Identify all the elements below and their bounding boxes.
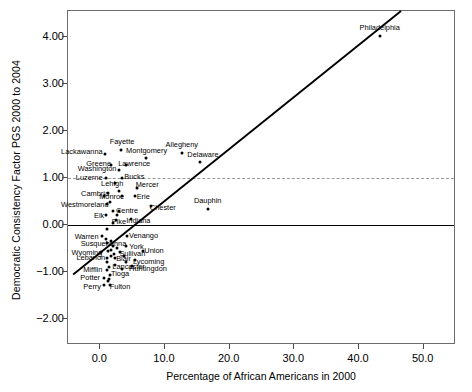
data-point-label: Delaware xyxy=(187,151,218,158)
data-point-label: Philadelphia xyxy=(360,24,400,31)
data-point-label: Venango xyxy=(129,232,158,239)
data-point-label: Centre xyxy=(116,207,138,214)
data-point-label: Lehigh xyxy=(101,180,123,187)
data-point xyxy=(103,152,106,155)
data-point xyxy=(112,253,115,256)
x-tick-label: 50.0 xyxy=(412,352,433,364)
data-point-label: Lebanon xyxy=(76,255,105,262)
scatter-plot-figure: Democratic Consistency Factor PGS 2000 t… xyxy=(0,0,472,392)
data-point xyxy=(100,234,103,237)
data-point-label: Perry xyxy=(83,284,101,291)
data-point-label: Mercer xyxy=(136,181,159,188)
x-tick-mark xyxy=(293,344,294,349)
x-tick-mark xyxy=(164,344,165,349)
data-point xyxy=(120,149,123,152)
data-point xyxy=(102,194,105,197)
x-tick-label: 20.0 xyxy=(218,352,239,364)
data-point-label: Union xyxy=(144,248,163,255)
data-point-label: Washington xyxy=(78,166,117,173)
data-point xyxy=(198,161,201,164)
data-point xyxy=(103,284,106,287)
data-point-label: Susquehanna xyxy=(81,240,127,247)
data-point-label: Elk xyxy=(94,212,104,219)
x-tick-mark xyxy=(423,344,424,349)
data-point-label: Huntingdon xyxy=(129,265,167,272)
data-point xyxy=(116,246,119,249)
x-tick-label: 0.0 xyxy=(92,352,107,364)
data-point xyxy=(180,152,183,155)
data-point xyxy=(106,227,109,230)
x-tick-label: 40.0 xyxy=(347,352,368,364)
data-point xyxy=(109,239,112,242)
data-point-label: Indiana xyxy=(126,218,150,225)
data-point-label: Lackawanna xyxy=(61,148,103,155)
data-point-label: Westmoreland xyxy=(61,201,109,208)
data-point xyxy=(122,255,125,258)
data-point xyxy=(109,200,112,203)
data-point-label: Fulton xyxy=(110,283,131,290)
data-point-label: Allegheny xyxy=(166,141,198,148)
data-point xyxy=(108,266,111,269)
data-point xyxy=(109,248,112,251)
data-point xyxy=(121,267,124,270)
data-point xyxy=(112,245,115,248)
plot-area: PhiladelphiaAlleghenyDelawareFayetteLack… xyxy=(67,10,455,344)
data-point xyxy=(107,280,110,283)
data-point xyxy=(103,276,106,279)
data-point xyxy=(125,261,128,264)
data-point xyxy=(107,250,110,253)
data-point-label: Fayette xyxy=(110,139,135,146)
data-point xyxy=(116,213,119,216)
data-point-label: Erie xyxy=(137,193,150,200)
data-point-label: Potter xyxy=(80,274,100,281)
data-point-label: Luzerne xyxy=(76,174,103,181)
data-point xyxy=(104,238,107,241)
data-point xyxy=(105,213,108,216)
data-point xyxy=(206,208,209,211)
data-point xyxy=(105,260,108,263)
x-tick-label: 10.0 xyxy=(153,352,174,364)
x-tick-label: 30.0 xyxy=(283,352,304,364)
data-point-label: Dauphin xyxy=(194,197,222,204)
data-point xyxy=(124,244,127,247)
data-point xyxy=(118,190,121,193)
data-point xyxy=(112,209,115,212)
data-point-label: Lawrence xyxy=(118,160,150,167)
data-point-label: Chester xyxy=(150,204,176,211)
data-point xyxy=(109,255,112,258)
x-tick-mark xyxy=(229,344,230,349)
data-point xyxy=(378,34,381,37)
x-tick-mark xyxy=(99,344,100,349)
data-point-label: Tioga xyxy=(111,271,129,278)
data-point xyxy=(112,221,115,224)
data-point-label: Montgomery xyxy=(126,148,167,155)
data-point xyxy=(118,169,121,172)
x-tick-mark xyxy=(358,344,359,349)
